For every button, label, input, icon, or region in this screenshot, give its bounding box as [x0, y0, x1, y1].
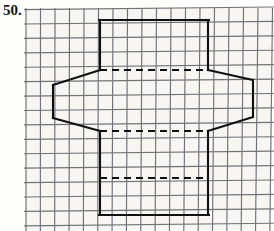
- problem-number-label: 50.: [3, 2, 22, 19]
- graph-paper-figure: [0, 0, 274, 231]
- figure-page: 50.: [0, 0, 274, 231]
- grid-line-vertical: [83, 8, 84, 231]
- grid-line-vertical: [98, 8, 99, 231]
